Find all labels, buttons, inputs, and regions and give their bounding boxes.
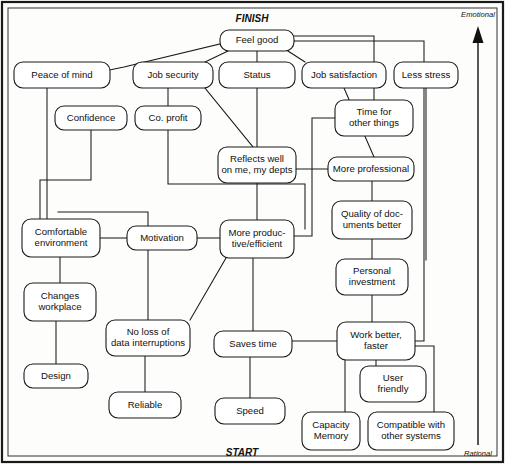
- node-label: other things: [349, 117, 399, 128]
- node-comfortable-env[interactable]: Comfortableenvironment: [22, 219, 100, 257]
- node-label: uments better: [343, 219, 402, 230]
- node-label: faster: [364, 340, 389, 351]
- nodes-layer: Feel goodPeace of mindJob securityStatus…: [14, 30, 458, 450]
- node-label: Job satisfaction: [311, 69, 377, 80]
- edge-more-productive-to-no-loss-data: [190, 258, 226, 320]
- node-label: Time for: [357, 106, 393, 117]
- emotional-axis-label: Emotional: [461, 10, 495, 19]
- node-label: Confidence: [67, 112, 116, 123]
- node-label: Speed: [236, 405, 264, 416]
- node-label: Personal: [353, 265, 391, 276]
- node-label: Comfortable: [35, 226, 87, 237]
- node-more-productive[interactable]: More produc-tive/efficient: [220, 220, 294, 258]
- node-no-loss-data[interactable]: No loss ofdata interruptions: [106, 320, 190, 356]
- means-end-chain-diagram: Feel goodPeace of mindJob securityStatus…: [0, 0, 505, 464]
- node-capacity-memory[interactable]: CapacityMemory: [302, 412, 360, 450]
- node-label: Capacity: [312, 419, 350, 430]
- rational-axis-label: Rational: [464, 449, 492, 458]
- node-label: Saves time: [229, 338, 276, 349]
- node-reflects-well[interactable]: Reflects wellon me, my depts: [218, 147, 296, 183]
- node-label: investment: [349, 276, 396, 287]
- node-saves-time[interactable]: Saves time: [214, 331, 292, 357]
- node-more-professional[interactable]: More professional: [328, 157, 414, 181]
- node-less-stress[interactable]: Less stress: [394, 62, 458, 88]
- node-work-better[interactable]: Work better,faster: [337, 322, 415, 360]
- node-label: Co. profit: [149, 112, 188, 123]
- node-design[interactable]: Design: [24, 364, 88, 388]
- node-reliable[interactable]: Reliable: [109, 392, 181, 418]
- node-label: on me, my depts: [222, 164, 293, 175]
- node-label: tive/efficient: [232, 238, 283, 249]
- node-label: Peace of mind: [31, 69, 92, 80]
- node-co-profit[interactable]: Co. profit: [135, 106, 201, 130]
- diagram-page: Feel goodPeace of mindJob securityStatus…: [0, 0, 505, 464]
- node-compatible[interactable]: Compatible withother systems: [368, 412, 454, 450]
- node-changes-workplace[interactable]: Changesworkplace: [24, 283, 96, 321]
- node-label: friendly: [378, 383, 409, 394]
- node-label: other systems: [381, 430, 441, 441]
- node-label: More produc-: [228, 227, 285, 238]
- node-label: Memory: [314, 430, 349, 441]
- node-label: Less stress: [402, 69, 451, 80]
- node-user-friendly[interactable]: Userfriendly: [360, 366, 426, 402]
- node-label: Job security: [147, 69, 198, 80]
- start-label: START: [226, 447, 259, 458]
- node-quality-docs[interactable]: Quality of doc-uments better: [332, 201, 412, 239]
- node-label: Changes: [41, 290, 80, 301]
- node-label: Reflects well: [230, 153, 284, 164]
- node-label: Feel good: [236, 34, 279, 45]
- node-label: Design: [41, 370, 71, 381]
- finish-label: FINISH: [236, 13, 270, 24]
- node-confidence[interactable]: Confidence: [55, 106, 127, 130]
- node-speed[interactable]: Speed: [215, 398, 285, 424]
- node-label: More professional: [333, 163, 409, 174]
- node-label: Reliable: [128, 399, 163, 410]
- edge-confidence-to-comfortable-env: [40, 130, 91, 219]
- node-label: Work better,: [350, 329, 402, 340]
- edge-feel-good-to-job-satisfaction: [288, 51, 305, 62]
- node-personal-invest[interactable]: Personalinvestment: [336, 259, 408, 295]
- node-motivation[interactable]: Motivation: [127, 226, 197, 250]
- node-peace-of-mind[interactable]: Peace of mind: [14, 62, 110, 88]
- node-label: User: [383, 372, 404, 383]
- node-status[interactable]: Status: [219, 62, 295, 88]
- node-label: data interruptions: [111, 337, 185, 348]
- node-label: Status: [243, 69, 270, 80]
- node-label: No loss of: [127, 326, 170, 337]
- node-job-satisfaction[interactable]: Job satisfaction: [302, 62, 386, 88]
- node-job-security[interactable]: Job security: [133, 62, 213, 88]
- node-time-for-other[interactable]: Time forother things: [335, 100, 413, 136]
- node-label: workplace: [37, 301, 81, 312]
- node-label: Quality of doc-: [341, 208, 403, 219]
- node-feel-good[interactable]: Feel good: [220, 30, 294, 51]
- node-label: Compatible with: [377, 419, 445, 430]
- node-label: environment: [35, 237, 88, 248]
- emotional-rational-arrow: [473, 26, 484, 445]
- edge-job-security-to-reflects-well: [205, 88, 253, 147]
- edge-feel-good-to-job-security: [205, 51, 228, 62]
- node-label: Motivation: [140, 232, 184, 243]
